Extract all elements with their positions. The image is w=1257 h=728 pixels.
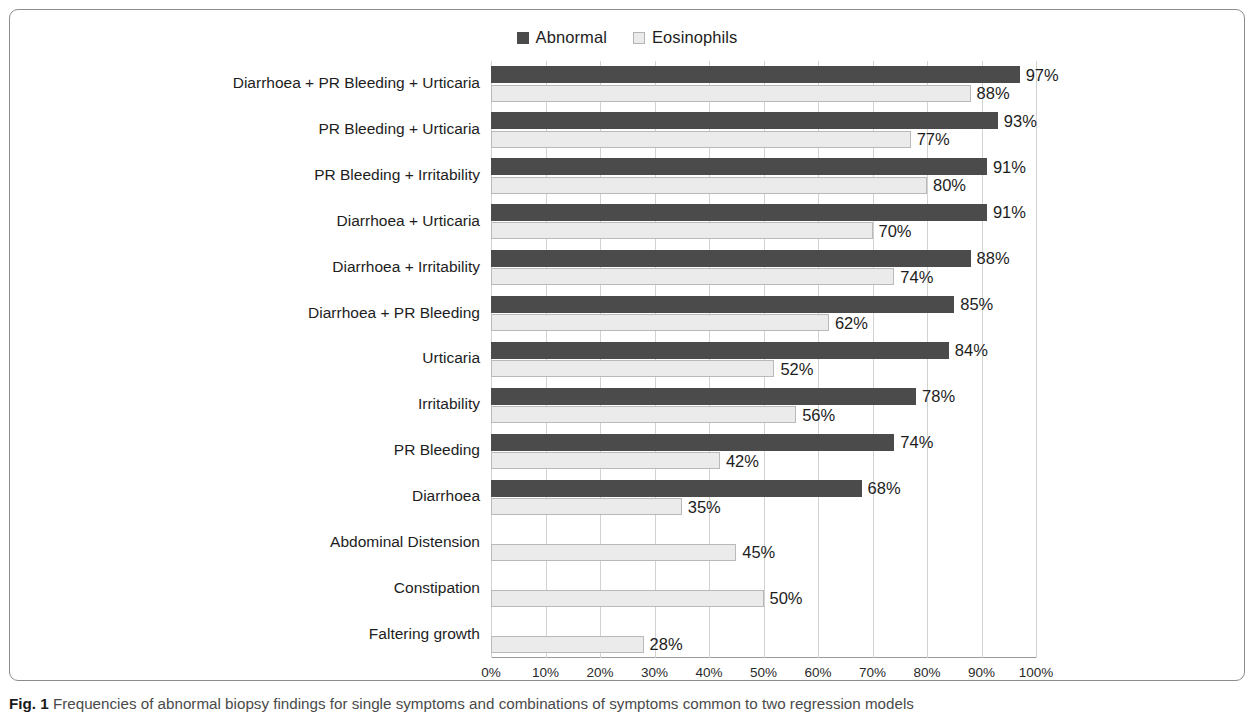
category-label: Constipation — [394, 579, 480, 597]
chart-row: PR Bleeding74%42% — [491, 428, 1036, 474]
legend-label-abnormal: Abnormal — [536, 28, 607, 47]
bar-abnormal — [491, 342, 949, 359]
x-tick-label: 60% — [804, 665, 831, 680]
x-tick-label: 90% — [968, 665, 995, 680]
bar-eosinophils — [491, 406, 796, 423]
x-tick-label: 50% — [750, 665, 777, 680]
chart-row: Diarrhoea68%35% — [491, 474, 1036, 520]
bar-abnormal — [491, 296, 954, 313]
chart-row: Abdominal Distension45% — [491, 520, 1036, 566]
category-label: Diarrhoea + PR Bleeding + Urticaria — [233, 74, 480, 92]
bar-value-label-eosinophils: 45% — [742, 544, 775, 561]
bar-eosinophils — [491, 314, 829, 331]
bar-value-label-eosinophils: 77% — [917, 131, 950, 148]
category-label: Faltering growth — [369, 625, 480, 643]
bar-abnormal — [491, 388, 916, 405]
bar-eosinophils — [491, 544, 736, 561]
bar-eosinophils — [491, 636, 644, 653]
bar-abnormal — [491, 250, 971, 267]
bar-abnormal — [491, 204, 987, 221]
category-label: Diarrhoea + Urticaria — [337, 212, 480, 230]
bar-abnormal — [491, 434, 894, 451]
bar-abnormal — [491, 480, 862, 497]
bar-value-label-eosinophils: 80% — [933, 177, 966, 194]
legend-entry-eosinophils: Eosinophils — [633, 28, 738, 47]
chart-row: PR Bleeding + Irritability91%80% — [491, 153, 1036, 199]
bar-eosinophils — [491, 590, 764, 607]
x-tick-label: 0% — [481, 665, 501, 680]
legend-swatch-filled-square-icon — [517, 32, 529, 44]
bar-value-label-abnormal: 93% — [1004, 113, 1037, 130]
x-tick-label: 70% — [859, 665, 886, 680]
bar-value-label-abnormal: 85% — [960, 296, 993, 313]
bar-value-label-eosinophils: 62% — [835, 315, 868, 332]
bar-eosinophils — [491, 131, 911, 148]
category-label: Urticaria — [422, 349, 480, 367]
bar-value-label-abnormal: 78% — [922, 388, 955, 405]
chart-legend: Abnormal Eosinophils — [10, 28, 1244, 47]
figure-container: Abnormal Eosinophils Diarrhoea + PR Blee… — [0, 0, 1257, 728]
x-tick-label: 30% — [641, 665, 668, 680]
bar-value-label-eosinophils: 74% — [900, 269, 933, 286]
x-axis-tick-labels: 0%10%20%30%40%50%60%70%80%90%100% — [491, 665, 1036, 689]
bar-eosinophils — [491, 498, 682, 515]
bar-abnormal — [491, 112, 998, 129]
category-label: Diarrhoea + PR Bleeding — [308, 304, 480, 322]
chart-frame: Abnormal Eosinophils Diarrhoea + PR Blee… — [9, 9, 1245, 681]
x-tick-label: 20% — [586, 665, 613, 680]
category-label: Diarrhoea + Irritability — [332, 258, 480, 276]
x-tick-label: 40% — [695, 665, 722, 680]
plot-area: Diarrhoea + PR Bleeding + Urticaria97%88… — [491, 61, 1036, 658]
bar-value-label-eosinophils: 50% — [770, 590, 803, 607]
caption-body: Frequencies of abnormal biopsy findings … — [53, 695, 914, 712]
x-tick-label: 10% — [532, 665, 559, 680]
bar-eosinophils — [491, 85, 971, 102]
chart-row: Urticaria84%52% — [491, 337, 1036, 383]
bar-value-label-eosinophils: 56% — [802, 407, 835, 424]
category-label: PR Bleeding + Irritability — [314, 166, 480, 184]
bar-value-label-eosinophils: 70% — [879, 223, 912, 240]
legend-entry-abnormal: Abnormal — [517, 28, 607, 47]
category-label: PR Bleeding — [394, 441, 480, 459]
bar-eosinophils — [491, 360, 774, 377]
bar-value-label-abnormal: 91% — [993, 204, 1026, 221]
category-label: Diarrhoea — [412, 487, 480, 505]
legend-label-eosinophils: Eosinophils — [652, 28, 738, 47]
chart-row: PR Bleeding + Urticaria93%77% — [491, 107, 1036, 153]
bar-value-label-abnormal: 84% — [955, 342, 988, 359]
chart-row: Diarrhoea + Irritability88%74% — [491, 245, 1036, 291]
bar-value-label-abnormal: 74% — [900, 434, 933, 451]
chart-row: Diarrhoea + PR Bleeding + Urticaria97%88… — [491, 61, 1036, 107]
bar-value-label-abnormal: 88% — [977, 250, 1010, 267]
chart-row: Constipation50% — [491, 566, 1036, 612]
chart-row: Faltering growth28% — [491, 612, 1036, 658]
bar-value-label-eosinophils: 52% — [780, 361, 813, 378]
bar-value-label-eosinophils: 42% — [726, 453, 759, 470]
gridline-100-percent — [1036, 61, 1037, 658]
caption-figure-number: Fig. 1 — [9, 695, 49, 712]
bar-value-label-abnormal: 97% — [1026, 67, 1059, 84]
bar-eosinophils — [491, 177, 927, 194]
legend-swatch-outlined-square-icon — [633, 32, 645, 44]
category-label: Irritability — [418, 395, 480, 413]
bar-value-label-abnormal: 91% — [993, 159, 1026, 176]
bar-value-label-abnormal: 68% — [868, 480, 901, 497]
category-label: PR Bleeding + Urticaria — [318, 120, 480, 138]
x-tick-label: 80% — [913, 665, 940, 680]
bar-abnormal — [491, 66, 1020, 83]
bar-eosinophils — [491, 268, 894, 285]
bar-eosinophils — [491, 222, 873, 239]
bar-value-label-eosinophils: 35% — [688, 499, 721, 516]
chart-row: Diarrhoea + Urticaria91%70% — [491, 199, 1036, 245]
bar-abnormal — [491, 158, 987, 175]
x-tick-label: 100% — [1019, 665, 1054, 680]
chart-row: Diarrhoea + PR Bleeding85%62% — [491, 291, 1036, 337]
bar-value-label-eosinophils: 28% — [650, 636, 683, 653]
bar-value-label-eosinophils: 88% — [977, 85, 1010, 102]
bar-eosinophils — [491, 452, 720, 469]
chart-row: Irritability78%56% — [491, 382, 1036, 428]
figure-caption: Fig. 1 Frequencies of abnormal biopsy fi… — [9, 694, 1249, 713]
category-label: Abdominal Distension — [330, 533, 480, 551]
